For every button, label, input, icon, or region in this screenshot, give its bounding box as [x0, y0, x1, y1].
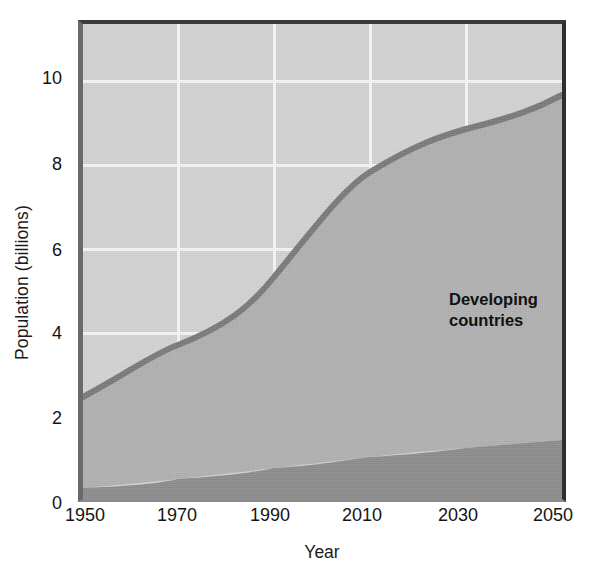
- x-tick-label-2010: 2010: [324, 505, 400, 525]
- developing-countries-label: Developing countries: [449, 289, 566, 331]
- y-axis-title: Population (billions): [12, 173, 33, 393]
- x-tick-label-1970: 1970: [139, 505, 215, 525]
- x-tick-label-2050: 2050: [515, 505, 591, 525]
- x-tick-label-1990: 1990: [232, 505, 308, 525]
- y-tick-label-10: 10: [18, 69, 62, 87]
- y-tick-label-6: 6: [18, 241, 62, 259]
- x-tick-label-1950: 1950: [47, 505, 123, 525]
- x-axis-title: Year: [78, 542, 566, 563]
- developing-countries-label-line2: countries: [449, 311, 523, 329]
- y-tick-label-8: 8: [18, 155, 62, 173]
- x-tick-label-2030: 2030: [420, 505, 496, 525]
- industrially-advanced-label: Industrially advanced countries: [223, 499, 471, 502]
- y-tick-label-4: 4: [18, 324, 62, 342]
- plot-area: Developing countries Industrially advanc…: [78, 20, 566, 502]
- developing-countries-label-line1: Developing: [449, 290, 538, 308]
- y-tick-label-2: 2: [18, 409, 62, 427]
- population-area-chart: Population (billions) 10 8 6 4 2 0: [0, 0, 595, 575]
- chart-canvas: [83, 24, 562, 499]
